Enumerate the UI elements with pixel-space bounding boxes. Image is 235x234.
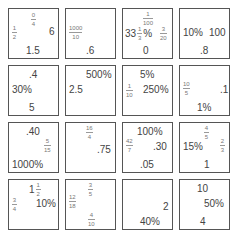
fraction-bar — [126, 145, 133, 146]
fraction-bar — [126, 90, 133, 91]
value-label: 1 — [204, 160, 210, 170]
numerator: 42 — [126, 138, 133, 144]
denominator: 5 — [89, 191, 92, 197]
mixed-number: 112 — [29, 182, 42, 198]
fraction: 1218 — [69, 194, 76, 210]
card-10[interactable]: 164.75 — [65, 122, 116, 173]
card-7[interactable]: 5%110250% — [122, 65, 173, 116]
denominator: 2 — [36, 191, 39, 197]
fraction-bar — [88, 189, 93, 190]
value-label: .75 — [97, 145, 111, 155]
denominator: 10 — [88, 221, 95, 227]
value-label: .8 — [200, 46, 208, 56]
fraction: 45 — [204, 125, 209, 141]
fraction: 35 — [88, 182, 93, 198]
fraction: 12 — [12, 25, 17, 41]
value-label: 500% — [86, 70, 112, 80]
numerator: 3 — [162, 26, 165, 32]
card-13[interactable]: 1123410% — [8, 179, 59, 230]
numerator: 4 — [90, 212, 93, 218]
denominator: 3 — [138, 35, 141, 41]
value-label: 100 — [209, 28, 226, 38]
value-label: 50% — [204, 199, 224, 209]
card-2[interactable]: 100010.6 — [65, 8, 116, 59]
numerator: 4 — [205, 125, 208, 131]
fraction-bar — [36, 189, 41, 190]
value-label: 2 — [163, 202, 169, 212]
value-label: 6 — [49, 27, 55, 37]
fraction-bar — [12, 204, 17, 205]
card-4[interactable]: 10%100.8 — [179, 8, 230, 59]
card-1[interactable]: 041261.5 — [8, 8, 59, 59]
card-8[interactable]: 105.11% — [179, 65, 230, 116]
numerator: 2 — [221, 138, 224, 144]
numerator: 1 — [36, 182, 39, 188]
numerator: 1 — [146, 11, 149, 17]
fraction: 12 — [36, 182, 41, 198]
fraction-bar — [12, 32, 17, 33]
fraction: 34 — [12, 197, 17, 213]
card-5[interactable]: .430%5 — [8, 65, 59, 116]
fraction-bar — [143, 18, 153, 19]
fraction-bar — [69, 32, 82, 33]
card-9[interactable]: .405151000% — [8, 122, 59, 173]
fraction-bar — [88, 219, 95, 220]
value-label: .05 — [140, 160, 154, 170]
fraction: 105 — [183, 81, 190, 97]
numerator: 1 — [138, 26, 141, 32]
fraction-bar — [160, 33, 167, 34]
value-label: 10 — [197, 184, 208, 194]
value-label: .30 — [153, 142, 167, 152]
fraction-bar — [86, 132, 93, 133]
denominator: 15 — [44, 147, 51, 153]
numerator: 5 — [46, 138, 49, 144]
fraction-bar — [204, 132, 209, 133]
value-label: .4 — [29, 70, 37, 80]
value-label: 2.5 — [69, 85, 83, 95]
card-3[interactable]: 11003313%3200 — [122, 8, 173, 59]
denominator: 18 — [69, 203, 76, 209]
value-label: 250% — [143, 85, 169, 95]
card-6[interactable]: 500%2.5 — [65, 65, 116, 116]
value-label: .6 — [86, 46, 94, 56]
denominator: 4 — [13, 206, 16, 212]
value-label: 5% — [140, 70, 154, 80]
fraction: 100010 — [69, 25, 82, 41]
fraction-bar — [137, 33, 142, 34]
value-label: 1000% — [12, 160, 43, 170]
fraction: 515 — [44, 138, 51, 154]
numerator: 1 — [13, 25, 16, 31]
card-14[interactable]: 351218410 — [65, 179, 116, 230]
denominator: 2 — [13, 34, 16, 40]
value-label: 10% — [183, 28, 203, 38]
numerator: 12 — [69, 194, 76, 200]
card-15[interactable]: 240% — [122, 179, 173, 230]
numerator: 16 — [86, 125, 93, 131]
numerator: 0 — [32, 12, 35, 18]
fraction: 110 — [126, 83, 133, 99]
fraction: 04 — [31, 12, 36, 28]
denominator: 20 — [160, 35, 167, 41]
value-label: .1 — [220, 85, 228, 95]
value-label: 40% — [140, 217, 160, 227]
fraction-bar — [31, 19, 36, 20]
value-label: 10% — [36, 199, 56, 209]
value-label: 1% — [197, 103, 211, 113]
whole-part: 33 — [125, 29, 136, 39]
value-label: 30% — [12, 85, 32, 95]
fraction-bar — [220, 145, 225, 146]
value-label: .40 — [26, 127, 40, 137]
fraction-bar — [44, 145, 51, 146]
denominator: 7 — [128, 147, 131, 153]
value-label: 5 — [29, 103, 35, 113]
value-label: 1.5 — [26, 46, 40, 56]
mixed-number: 3313% — [125, 26, 152, 42]
fraction-bar — [183, 88, 190, 89]
card-16[interactable]: 1050%4 — [179, 179, 230, 230]
card-11[interactable]: 100%427.30.05 — [122, 122, 173, 173]
value-label: 4 — [200, 217, 206, 227]
card-12[interactable]: 4515%231 — [179, 122, 230, 173]
denominator: 10 — [126, 92, 133, 98]
value-label: 15% — [183, 142, 203, 152]
fraction: 320 — [160, 26, 167, 42]
